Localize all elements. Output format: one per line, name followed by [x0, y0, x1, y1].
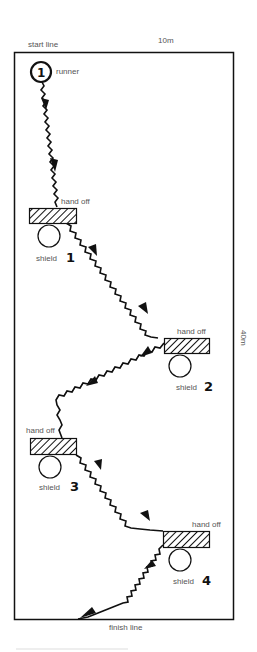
shield-icon: [38, 225, 60, 247]
runner-number: 1: [37, 66, 45, 80]
arrow-icon: [144, 560, 156, 569]
width-label: 10m: [158, 36, 174, 45]
station-number: 3: [70, 479, 79, 494]
relay-drill-diagram: start line 10m 40m finish line 1 runner …: [0, 0, 257, 652]
handoff-zone: [30, 209, 77, 224]
station-number: 4: [202, 573, 211, 588]
station-3: hand off shield 3: [26, 426, 79, 494]
station-2: hand off shield 2: [165, 327, 214, 394]
shield-icon: [169, 549, 191, 571]
path-shield-2-to-shield-3: [56, 343, 164, 438]
handoff-zone: [165, 339, 210, 354]
station-number: 1: [66, 250, 75, 265]
handoff-label: hand off: [26, 426, 56, 435]
arrow-icon: [138, 302, 148, 314]
shield-label: shield: [36, 254, 57, 263]
direction-arrows: [41, 98, 156, 618]
handoff-label: hand off: [177, 327, 207, 336]
handoff-zone: [31, 439, 77, 455]
shield-icon: [169, 355, 191, 377]
handoff-label: hand off: [192, 520, 222, 529]
path-shield-4-to-finish: [78, 545, 163, 619]
station-number: 2: [204, 379, 213, 394]
length-label: 40m: [239, 330, 248, 346]
shield-icon: [39, 456, 61, 478]
shield-label: shield: [39, 483, 60, 492]
arrow-icon: [94, 459, 102, 470]
path-shield-3-to-shield-4: [76, 455, 163, 531]
path-shield-1-to-shield-2: [66, 223, 158, 338]
shield-label: shield: [176, 383, 197, 392]
arrow-icon: [86, 376, 98, 386]
arrow-icon: [140, 510, 150, 521]
arrow-icon: [140, 346, 152, 357]
start-line-label: start line: [28, 40, 59, 49]
runner-label: runner: [56, 67, 79, 76]
shield-label: shield: [173, 577, 194, 586]
faint-caption: [16, 648, 128, 650]
finish-line-label: finish line: [109, 623, 143, 632]
station-4: hand off shield 4: [164, 520, 222, 588]
handoff-zone: [164, 532, 210, 548]
station-1: hand off shield 1: [30, 197, 91, 265]
handoff-label: hand off: [61, 197, 91, 206]
